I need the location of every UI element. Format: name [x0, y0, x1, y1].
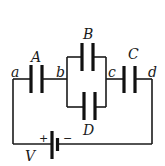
capacitor-a	[31, 65, 42, 93]
capacitor-c	[124, 66, 135, 93]
label-capacitor-b: B	[82, 26, 93, 42]
parallel-branch-frame	[67, 57, 106, 107]
label-capacitor-d: D	[82, 122, 94, 138]
wire-right	[135, 79, 152, 144]
battery-plus-sign: +	[39, 132, 48, 145]
label-capacitor-a: A	[29, 49, 41, 65]
wire-left	[13, 79, 31, 144]
label-node-b: b	[56, 64, 65, 80]
battery-minus-sign: −	[63, 132, 72, 145]
label-node-a: a	[11, 64, 19, 80]
label-node-c: c	[108, 64, 116, 80]
circuit-diagram: A B D C a b c d + − V	[0, 0, 165, 166]
label-capacitor-c: C	[128, 46, 139, 62]
capacitor-d	[84, 92, 95, 120]
label-battery-v: V	[25, 148, 37, 164]
label-node-d: d	[148, 64, 157, 80]
battery	[52, 131, 58, 159]
capacitor-b	[82, 43, 93, 71]
